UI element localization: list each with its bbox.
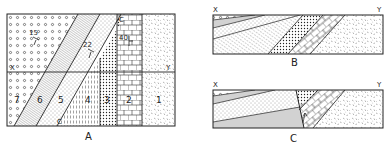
section-label-x-a: X bbox=[10, 64, 15, 72]
dip-value-40: 40 bbox=[119, 34, 128, 42]
dip-value-15: 15 bbox=[29, 29, 38, 37]
panel-b-section bbox=[213, 15, 383, 54]
unit-label-1: 1 bbox=[156, 95, 162, 105]
panel-c-caption: C bbox=[290, 133, 297, 144]
contact-label-c-top: C bbox=[119, 16, 124, 24]
panel-c-section bbox=[213, 90, 383, 128]
section-label-y-c: Y bbox=[376, 81, 382, 89]
section-label-y-a: Y bbox=[165, 64, 171, 72]
panel-b-caption: B bbox=[291, 57, 298, 68]
unit-label-6: 6 bbox=[37, 95, 43, 105]
unit-label-3: 3 bbox=[104, 95, 110, 105]
unit-label-7: 7 bbox=[14, 95, 20, 105]
unit-2-area bbox=[117, 14, 142, 126]
section-label-x-b: X bbox=[213, 6, 218, 14]
section-label-y-b: Y bbox=[376, 6, 382, 14]
contact-label-c-bottom: C bbox=[57, 118, 62, 126]
dip-value-22: 22 bbox=[83, 41, 92, 49]
unit-label-2: 2 bbox=[126, 95, 132, 105]
section-label-x-c: X bbox=[213, 81, 218, 89]
panel-a-caption: A bbox=[85, 131, 92, 142]
unit-label-5: 5 bbox=[58, 95, 64, 105]
unit-label-4: 4 bbox=[85, 95, 91, 105]
